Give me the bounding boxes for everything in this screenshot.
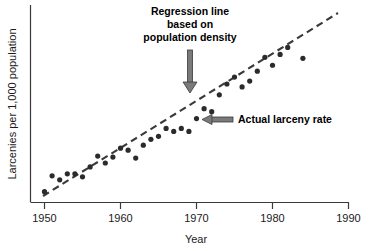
data-point: [164, 126, 169, 131]
data-point: [118, 146, 123, 151]
data-point: [88, 164, 93, 169]
data-point: [202, 106, 207, 111]
data-point: [240, 84, 245, 89]
data-point: [72, 171, 77, 176]
x-tick-label-1950: 1950: [32, 212, 56, 224]
data-point: [141, 143, 146, 148]
data-point: [103, 160, 108, 165]
data-point: [209, 109, 214, 114]
data-point: [126, 148, 131, 153]
data-point: [133, 155, 138, 160]
regression-annotation-line2: based on: [167, 18, 213, 30]
data-point: [285, 45, 290, 50]
x-tick-label-1960: 1960: [108, 212, 132, 224]
actual-rate-arrow: [202, 115, 233, 125]
actual-rate-arrow-shaft: [211, 117, 233, 122]
data-point: [247, 78, 252, 83]
chart-canvas: 1950 1960 1970 1980 1990 Year Larcenies …: [0, 0, 392, 251]
data-point: [57, 177, 62, 182]
data-point: [80, 174, 85, 179]
actual-rate-arrow-head: [202, 115, 212, 125]
x-tick-label-1980: 1980: [260, 212, 284, 224]
data-point: [110, 154, 115, 159]
data-point: [224, 81, 229, 86]
regression-arrow: [183, 50, 197, 93]
data-point: [156, 134, 161, 139]
scatter-chart: 1950 1960 1970 1980 1990 Year Larcenies …: [0, 0, 392, 251]
data-point: [171, 129, 176, 134]
x-tick-label-1990: 1990: [336, 212, 360, 224]
x-tick-label-1970: 1970: [184, 212, 208, 224]
data-point: [270, 63, 275, 68]
regression-arrow-head: [183, 82, 197, 93]
data-point: [300, 56, 305, 61]
data-point: [148, 137, 153, 142]
data-point: [232, 74, 237, 79]
regression-annotation-line3: population density: [143, 31, 236, 43]
data-point: [194, 116, 199, 121]
y-axis-title: Larcenies per 1,000 population: [6, 28, 18, 179]
data-point: [65, 171, 70, 176]
data-point: [186, 129, 191, 134]
data-point: [95, 153, 100, 158]
regression-arrow-shaft: [188, 50, 193, 83]
x-axis-ticks: [45, 203, 349, 210]
x-axis-tick-labels: 1950 1960 1970 1980 1990: [32, 212, 360, 224]
regression-annotation-line1: Regression line: [151, 5, 229, 17]
data-point: [217, 92, 222, 97]
data-point: [262, 55, 267, 60]
actual-rate-annotation-label: Actual larceny rate: [238, 113, 332, 125]
x-axis-title: Year: [185, 233, 208, 245]
data-point: [42, 189, 47, 194]
data-point: [179, 126, 184, 131]
data-point: [278, 52, 283, 57]
data-point: [50, 173, 55, 178]
regression-annotation-text: Regression line based on population dens…: [143, 5, 236, 43]
data-point: [255, 69, 260, 74]
